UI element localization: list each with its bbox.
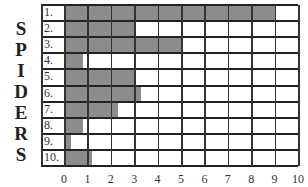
grid-hline xyxy=(41,52,298,54)
grid-vline xyxy=(64,5,66,166)
row-label: 6. xyxy=(41,86,64,102)
row-label: 9. xyxy=(41,134,64,150)
bar xyxy=(64,118,83,134)
vertical-axis-label: SPIDERS xyxy=(8,18,34,165)
x-tick-label: 5 xyxy=(178,172,184,187)
bar xyxy=(64,21,134,37)
vertical-label-letter: S xyxy=(16,144,27,165)
bar xyxy=(64,102,118,118)
grid-hline xyxy=(41,133,298,135)
grid-vline xyxy=(204,5,206,166)
grid-hline xyxy=(41,36,298,38)
vertical-label-letter: S xyxy=(16,18,27,39)
grid-vline xyxy=(275,5,277,166)
grid-vline xyxy=(251,5,253,166)
grid-vline xyxy=(111,5,113,166)
grid-vline xyxy=(41,5,43,166)
bar xyxy=(64,5,275,21)
grid-vline xyxy=(134,5,136,166)
grid-hline xyxy=(41,68,298,70)
bar xyxy=(64,86,141,102)
grid-vline xyxy=(228,5,230,166)
row-label: 8. xyxy=(41,118,64,134)
bar xyxy=(64,37,181,53)
vertical-label-letter: R xyxy=(14,123,28,144)
grid-hline xyxy=(41,165,298,167)
vertical-label-letter: P xyxy=(15,39,27,60)
vertical-label-letter: I xyxy=(17,60,24,81)
x-tick-label: 9 xyxy=(272,172,278,187)
vertical-label-letter: D xyxy=(14,81,28,102)
grid-vline xyxy=(87,5,89,166)
grid-vline xyxy=(181,5,183,166)
x-tick-label: 6 xyxy=(201,172,207,187)
row-label: 7. xyxy=(41,102,64,118)
vertical-label-letter: E xyxy=(15,102,28,123)
row-label: 3. xyxy=(41,37,64,53)
x-tick-label: 3 xyxy=(131,172,137,187)
x-tick-label: 10 xyxy=(292,172,304,187)
x-tick-label: 7 xyxy=(225,172,231,187)
x-tick-label: 1 xyxy=(84,172,90,187)
grid-hline xyxy=(41,85,298,87)
x-tick-label: 8 xyxy=(248,172,254,187)
grid-hline xyxy=(41,101,298,103)
bar xyxy=(64,69,134,85)
bar xyxy=(64,53,83,69)
x-tick-label: 4 xyxy=(155,172,161,187)
row-label: 10. xyxy=(41,150,64,166)
x-tick-label: 0 xyxy=(61,172,67,187)
row-label: 4. xyxy=(41,53,64,69)
grid-hline xyxy=(41,20,298,22)
x-tick-label: 2 xyxy=(108,172,114,187)
row-label: 2. xyxy=(41,21,64,37)
grid-hline xyxy=(41,117,298,119)
row-label: 1. xyxy=(41,5,64,21)
grid-vline xyxy=(298,5,300,166)
grid-hline xyxy=(41,149,298,151)
row-label: 5. xyxy=(41,69,64,85)
grid-hline xyxy=(41,4,298,6)
grid-vline xyxy=(158,5,160,166)
